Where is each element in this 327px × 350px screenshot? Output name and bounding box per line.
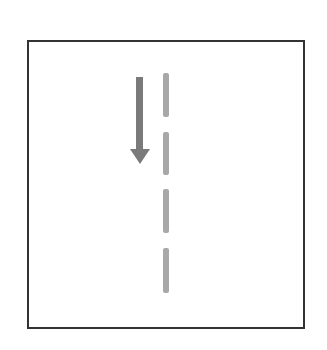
dash-segment bbox=[163, 189, 169, 233]
dashed-line bbox=[163, 73, 169, 293]
dash-segment bbox=[163, 73, 169, 117]
down-arrow-icon bbox=[130, 77, 150, 164]
dash-segment bbox=[163, 248, 169, 293]
diagram-canvas bbox=[0, 0, 327, 350]
dash-segment bbox=[163, 132, 169, 175]
